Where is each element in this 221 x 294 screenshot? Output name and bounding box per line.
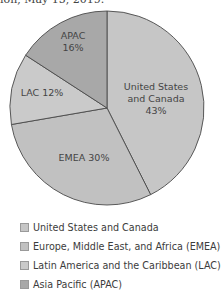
legend-swatch-icon bbox=[20, 242, 29, 251]
legend-swatch-icon bbox=[20, 280, 29, 289]
legend-label: United States and Canada bbox=[33, 222, 159, 233]
legend: United States and Canada Europe, Middle … bbox=[20, 218, 221, 294]
legend-label: Asia Pacific (APAC) bbox=[33, 279, 122, 290]
legend-item-lac: Latin America and the Caribbean (LAC) bbox=[20, 256, 221, 275]
pie-chart: United Statesand Canada43%EMEA 30%LAC 12… bbox=[0, 0, 220, 215]
legend-swatch-icon bbox=[20, 261, 29, 270]
slice-label: APAC16% bbox=[61, 30, 86, 53]
legend-swatch-icon bbox=[20, 223, 29, 232]
slice-label: LAC 12% bbox=[21, 87, 64, 98]
legend-item-us-canada: United States and Canada bbox=[20, 218, 221, 237]
legend-label: Europe, Middle East, and Africa (EMEA) bbox=[33, 241, 220, 252]
pie-slices bbox=[10, 11, 204, 205]
legend-item-emea: Europe, Middle East, and Africa (EMEA) bbox=[20, 237, 221, 256]
legend-label: Latin America and the Caribbean (LAC) bbox=[33, 260, 221, 271]
legend-item-apac: Asia Pacific (APAC) bbox=[20, 275, 221, 294]
slice-label: EMEA 30% bbox=[59, 152, 110, 163]
